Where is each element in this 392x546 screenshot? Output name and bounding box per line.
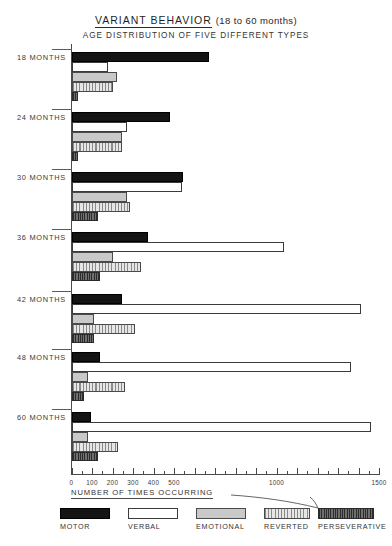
x-tick [297,468,298,475]
group-leader-line [52,409,72,410]
chart-figure: VARIANT BEHAVIOR (18 to 60 months) AGE D… [0,0,392,546]
bar-perseverative-42m [72,334,95,343]
legend-item-verbal: VERBAL [128,508,178,531]
plot-area: 18 MONTHS24 MONTHS30 MONTHS36 MONTHS42 M… [0,0,392,546]
x-tick [318,468,319,475]
x-tick-label: 1000 [269,479,284,486]
bar-emotional-60m [72,432,88,442]
group-label-18m: 18 MONTHS [4,53,66,62]
x-tick [143,471,144,475]
legend-swatch-emotional [196,508,246,519]
x-tick [133,468,134,475]
x-tick [225,471,226,475]
bar-verbal-42m [72,304,361,314]
x-tick [246,471,247,475]
x-tick [328,471,329,475]
bar-emotional-48m [72,372,88,382]
x-tick-label: 1500 [371,479,386,486]
x-tick [338,468,339,475]
x-tick [348,471,349,475]
x-tick [82,471,83,475]
x-tick [113,468,114,475]
x-tick [287,471,288,475]
bar-perseverative-18m [72,92,78,101]
bar-emotional-30m [72,192,127,202]
bar-verbal-30m [72,182,183,192]
bar-emotional-18m [72,72,117,82]
legend-item-emotional: EMOTIONAL [196,508,246,531]
x-tick-label: 0 [70,479,74,486]
group-leader-line [52,109,72,110]
x-tick-label: 400 [148,479,159,486]
bar-perseverative-30m [72,212,99,221]
x-tick [369,471,370,475]
x-tick [236,468,237,475]
group-leader-line [52,49,72,50]
x-tick-label: 100 [86,479,97,486]
bar-motor-36m [72,232,149,242]
x-tick [102,471,103,475]
x-tick [215,468,216,475]
bar-motor-24m [72,112,170,122]
legend-swatch-reverted [264,508,310,519]
x-tick-label: 200 [107,479,118,486]
group-label-36m: 36 MONTHS [4,233,66,242]
bar-verbal-18m [72,62,109,72]
group-label-48m: 48 MONTHS [4,353,66,362]
legend-item-perseverative: PERSEVERATIVE [318,508,386,531]
legend-label-reverted: REVERTED [264,522,310,531]
bar-reverted-24m [72,142,122,152]
x-tick [379,468,380,475]
x-tick [72,468,73,475]
bar-motor-60m [72,412,91,422]
x-tick [154,468,155,475]
legend-swatch-perseverative [318,508,374,519]
bar-emotional-36m [72,252,113,262]
bar-emotional-24m [72,132,122,142]
legend-label-motor: MOTOR [60,522,110,531]
bar-motor-18m [72,52,209,62]
bar-verbal-48m [72,362,352,372]
group-leader-line [52,349,72,350]
legend-swatch-verbal [128,508,178,519]
x-tick [256,468,257,475]
bar-reverted-36m [72,262,142,272]
x-tick [164,471,165,475]
group-label-30m: 30 MONTHS [4,173,66,182]
bar-perseverative-24m [72,152,78,161]
legend-label-perseverative: PERSEVERATIVE [318,522,386,531]
group-leader-line [52,229,72,230]
x-tick [92,468,93,475]
legend-item-reverted: REVERTED [264,508,310,531]
x-tick-label: 300 [127,479,138,486]
x-tick [184,471,185,475]
x-tick [174,468,175,475]
bar-perseverative-48m [72,392,84,401]
x-tick [307,471,308,475]
group-label-60m: 60 MONTHS [4,413,66,422]
x-tick [277,468,278,475]
legend-label-emotional: EMOTIONAL [196,522,246,531]
x-tick [123,471,124,475]
bar-reverted-30m [72,202,130,212]
legend: MOTORVERBALEMOTIONALREVERTEDPERSEVERATIV… [0,508,392,546]
x-axis-caption: NUMBER OF TIMES OCCURRING [71,488,213,499]
bar-reverted-18m [72,82,113,92]
bar-verbal-36m [72,242,284,252]
x-tick [266,471,267,475]
bar-motor-42m [72,294,122,304]
legend-label-verbal: VERBAL [128,522,178,531]
bar-perseverative-36m [72,272,101,281]
legend-item-motor: MOTOR [60,508,110,531]
bar-motor-48m [72,352,101,362]
group-leader-line [52,169,72,170]
group-label-24m: 24 MONTHS [4,113,66,122]
x-tick-label: 500 [168,479,179,486]
group-label-42m: 42 MONTHS [4,295,66,304]
bar-verbal-60m [72,422,371,432]
x-tick [195,468,196,475]
bar-reverted-48m [72,382,125,392]
bar-emotional-42m [72,314,95,324]
bar-perseverative-60m [72,452,99,461]
x-tick [359,468,360,475]
